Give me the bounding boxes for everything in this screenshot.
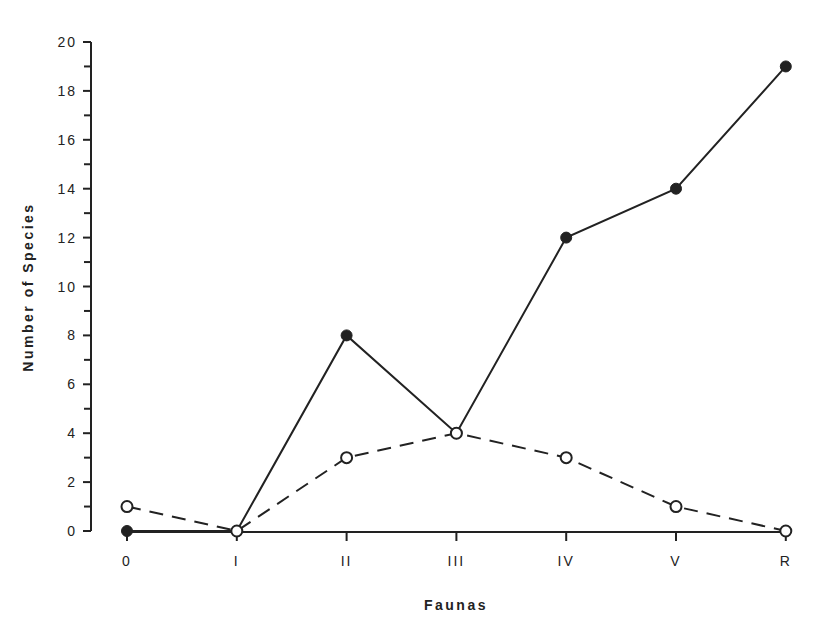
open-circle-marker [341,452,352,463]
filled-circle-marker [780,61,791,72]
x-tick-label: I [234,553,240,569]
x-tick-label: II [341,553,353,569]
filled-circle-marker [561,232,572,243]
y-axis-title: Number of Species [20,202,36,371]
open-circle-marker [451,428,462,439]
y-tick-label: 2 [67,474,77,490]
y-tick-label: 20 [57,34,77,50]
open-circle-marker [561,452,572,463]
filled-circle-marker [671,183,682,194]
x-tick-label: V [670,553,681,569]
y-tick-label: 16 [57,132,77,148]
x-axis: 0IIIIIIIVVR [122,532,792,569]
open-circle-marker [122,501,133,512]
open-circle-marker [671,501,682,512]
y-tick-label: 0 [67,523,77,539]
x-tick-label: IV [558,553,575,569]
x-tick-label: III [448,553,466,569]
x-axis-title: Faunas [424,597,488,613]
series-layer [122,61,792,537]
y-tick-label: 14 [57,181,77,197]
open-circle-marker [780,526,791,537]
open-circle-marker [231,526,242,537]
x-tick-label: R [780,553,792,569]
line-chart: 02468101214161820 0IIIIIIIVVR Number of … [0,0,821,630]
y-tick-label: 6 [67,376,77,392]
y-tick-label: 8 [67,327,77,343]
y-tick-label: 18 [57,83,77,99]
filled-circle-marker [122,526,133,537]
y-tick-label: 10 [57,279,77,295]
series-open [122,428,792,537]
filled-circle-marker [341,330,352,341]
y-tick-label: 4 [67,425,77,441]
y-axis: 02468101214161820 [57,34,91,539]
series-filled [122,61,792,537]
y-tick-label: 12 [57,230,77,246]
x-tick-label: 0 [122,553,132,569]
